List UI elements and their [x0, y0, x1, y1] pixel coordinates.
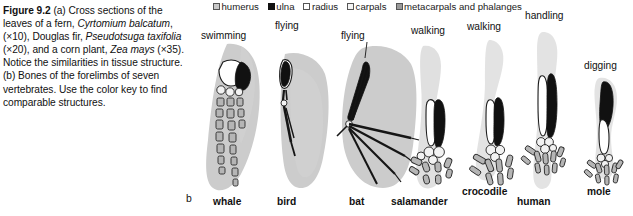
- caption-part-3: (×20), and a corn plant,: [3, 44, 110, 55]
- function-label-human: handling: [525, 10, 564, 21]
- limb-diagram-bird: [271, 38, 341, 193]
- color-key-legend: humerus ulna radius carpals metacarpals …: [213, 1, 522, 12]
- forelimb-plate: swimming flying flying walking walking h…: [195, 18, 633, 216]
- species-label-bird: bird: [277, 196, 296, 207]
- legend-label-radius: radius: [312, 1, 338, 12]
- function-label-crocodile: walking: [467, 21, 501, 32]
- legend-label-carpals: carpals: [356, 1, 387, 12]
- species-name-corn: Zea mays: [110, 44, 154, 55]
- figure-9-2: Figure 9.2 (a) Cross sections of the lea…: [0, 0, 633, 216]
- function-label-bird: flying: [275, 20, 299, 31]
- legend-swatch-carpals: [347, 3, 354, 10]
- panel-label-b: b: [186, 193, 192, 204]
- legend-item-metacarpals: metacarpals and phalanges: [396, 1, 522, 12]
- figure-caption: Figure 9.2 (a) Cross sections of the lea…: [3, 4, 193, 109]
- function-label-salamander: walking: [411, 25, 445, 36]
- legend-item-ulna: ulna: [268, 1, 295, 12]
- species-label-bat: bat: [349, 196, 364, 207]
- species-label-whale: whale: [213, 196, 241, 207]
- legend-item-humerus: humerus: [213, 1, 259, 12]
- legend-swatch-metacarpals: [396, 3, 403, 10]
- legend-swatch-radius: [303, 3, 310, 10]
- legend-label-humerus: humerus: [222, 1, 259, 12]
- legend-label-metacarpals: metacarpals and phalanges: [404, 1, 522, 12]
- limb-diagram-salamander: [407, 42, 469, 194]
- species-label-human: human: [517, 196, 550, 207]
- legend-label-ulna: ulna: [276, 1, 294, 12]
- species-name-fern: Cyrtomium balcatum: [77, 18, 170, 29]
- species-label-salamander: salamander: [391, 196, 448, 207]
- limb-diagram-mole: [583, 76, 633, 188]
- legend-item-carpals: carpals: [347, 1, 386, 12]
- limb-diagram-whale: [197, 40, 275, 195]
- limb-diagram-human: [517, 30, 581, 196]
- function-label-mole: digging: [584, 60, 617, 71]
- species-name-douglas-fir: Pseudotsuga taxifolia: [86, 31, 182, 42]
- legend-swatch-humerus: [213, 3, 220, 10]
- figure-number: Figure 9.2: [3, 5, 51, 16]
- legend-item-radius: radius: [303, 1, 338, 12]
- legend-swatch-ulna: [268, 3, 275, 10]
